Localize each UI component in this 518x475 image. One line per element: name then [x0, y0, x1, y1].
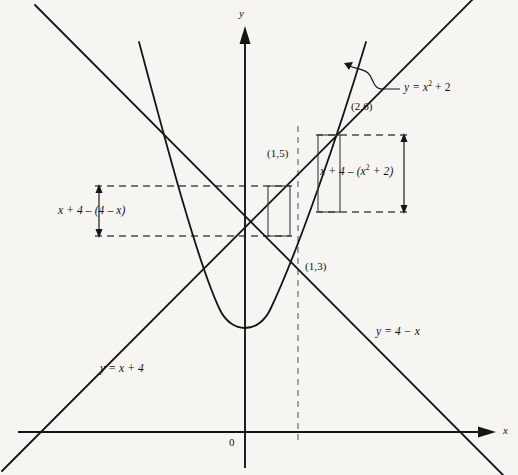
line-rising-equation-label: y = x + 4 [100, 363, 144, 375]
right-measure-arrow [401, 133, 408, 214]
x-axis-label: x [503, 425, 508, 436]
x-axis-arrowhead [478, 427, 496, 438]
left-strip-height-label: x + 4 – (4 – x) [58, 205, 125, 217]
right-strip-height-head: x + 4 – (x [320, 165, 366, 177]
right-strip-height-label: x + 4 – (x2 + 2) [320, 166, 393, 178]
y-axis-label: y [239, 8, 244, 19]
graph-svg [0, 0, 518, 475]
point-label-1-5: (1,5) [267, 148, 289, 159]
parabola-eq-tail: + 2 [432, 81, 450, 93]
y-axis-arrowhead [240, 26, 251, 44]
point-label-2-6: (2,6) [351, 101, 373, 112]
parabola-y-equals-x-squared-plus-2 [139, 42, 366, 328]
origin-label: 0 [229, 437, 235, 448]
line-falling-equation-label: y = 4 − x [376, 326, 420, 338]
right-strip-height-tail: + 2) [370, 165, 394, 177]
parabola-eq-head: y = x [404, 81, 428, 93]
line-rising-eq-text: y = x + 4 [100, 362, 144, 374]
point-label-1-3: (1,3) [305, 261, 327, 272]
leader-arrowhead [344, 62, 353, 70]
left-strip-height-text: x + 4 – (4 – x) [58, 204, 125, 216]
line-y-equals-4-minus-x [35, 5, 503, 475]
figure-canvas: y x 0 (1,5) (2,6) (1,3) y = x2 + 2 y = x… [0, 0, 518, 475]
parabola-equation-label: y = x2 + 2 [404, 82, 451, 94]
line-falling-eq-text: y = 4 − x [376, 325, 420, 337]
